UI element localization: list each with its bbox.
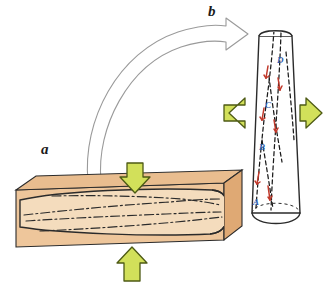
figure-canvas: a b A B C D xyxy=(0,0,325,285)
compression-arrow-bottom xyxy=(117,247,147,281)
tension-arrow-right xyxy=(300,98,322,128)
panel-label-b: b xyxy=(208,4,216,19)
log-bottom-front-arc xyxy=(252,213,300,224)
curved-transition-arrow xyxy=(87,18,248,182)
point-label-d: D xyxy=(277,56,284,65)
point-label-c: C xyxy=(265,101,271,110)
panel-b-tapered-log xyxy=(252,30,300,224)
point-label-a: A xyxy=(253,198,259,207)
panel-label-a: a xyxy=(41,142,49,157)
point-label-b: B xyxy=(259,143,265,152)
beam-end-face xyxy=(224,170,242,240)
log-top-cap xyxy=(259,31,292,36)
tension-arrow-left xyxy=(224,98,245,128)
